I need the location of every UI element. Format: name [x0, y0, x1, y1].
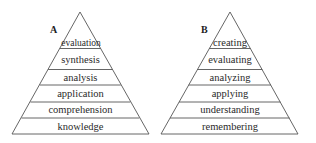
pyramid-b-level: analyzing	[210, 72, 252, 83]
pyramid-a-level: synthesis	[61, 54, 100, 65]
pyramid-b-level: understanding	[200, 104, 260, 115]
pyramid-a-level: knowledge	[57, 121, 103, 132]
pyramid-a-level: analysis	[64, 72, 98, 83]
pyramid-a-level: comprehension	[48, 104, 113, 115]
pyramid-b: B creating evaluating analyzing applying…	[161, 12, 298, 134]
pyramid-b-level: creating	[213, 37, 248, 48]
pyramid-a: A evaluation synthesis analysis applicat…	[12, 12, 149, 134]
pyramid-b-level: remembering	[202, 121, 259, 132]
pyramid-b-letter: B	[201, 24, 208, 35]
pyramid-a-level: evaluation	[61, 38, 101, 48]
pyramid-diagram: A evaluation synthesis analysis applicat…	[0, 0, 316, 143]
pyramid-a-level: application	[57, 88, 104, 99]
pyramid-b-level: applying	[212, 88, 249, 99]
pyramid-b-level: evaluating	[208, 54, 252, 65]
pyramid-a-letter: A	[50, 24, 58, 35]
